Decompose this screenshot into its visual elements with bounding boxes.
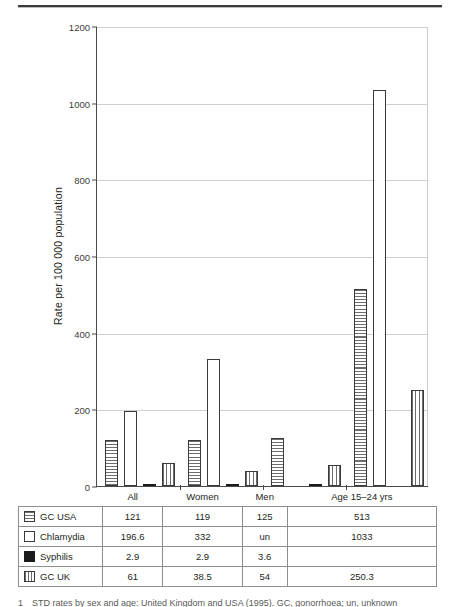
legend-swatch-chlamydia-icon — [24, 531, 35, 542]
legend-swatch-syphilis-icon — [24, 551, 35, 562]
bar-gc-uk-3 — [411, 390, 424, 486]
bar-gc-uk-2 — [328, 465, 341, 486]
table-cell-r3-c0: 61 — [103, 567, 163, 587]
table-cell-r2-c2: 3.6 — [242, 547, 287, 567]
bar-chlamydia-3 — [373, 90, 386, 486]
y-tick-mark-1200 — [92, 27, 97, 28]
table-header-row: AllWomenMenAge 15–24 yrs — [19, 487, 437, 507]
table-row-label-2: Syphilis — [19, 547, 103, 567]
table-row-label-3: GC UK — [19, 567, 103, 587]
table-cell-r2-c0: 2.9 — [103, 547, 163, 567]
y-tick-mark-600 — [92, 257, 97, 258]
table-cell-r2-c1: 2.9 — [163, 547, 242, 567]
table-header-0: All — [103, 487, 163, 507]
bar-syphilis-0 — [143, 484, 156, 487]
bar-gc-usa-1 — [188, 440, 201, 486]
table-cell-r0-c3: 513 — [287, 507, 436, 527]
y-tick-mark-400 — [92, 333, 97, 334]
table-row: GC USA121119125513 — [19, 507, 437, 527]
table-cell-r1-c3: 1033 — [287, 527, 436, 547]
legend-label-text: Syphilis — [40, 551, 73, 562]
plot-area: 020040060080010001200 — [96, 27, 428, 487]
table-cell-r0-c1: 119 — [163, 507, 242, 527]
data-table: AllWomenMenAge 15–24 yrsGC USA1211191255… — [18, 487, 437, 587]
legend-label-text: GC UK — [40, 571, 70, 582]
legend-label-text: GC USA — [40, 511, 76, 522]
figure-stc-rates-chart: Rate per 100 000 population 020040060080… — [0, 0, 454, 607]
figure-caption: 1STD rates by sex and age: United Kingdo… — [18, 598, 442, 607]
table-row: GC UK6138.554250.3 — [19, 567, 437, 587]
y-tick-mark-800 — [92, 180, 97, 181]
table-corner-cell — [19, 487, 103, 507]
table-cell-r3-c3: 250.3 — [287, 567, 436, 587]
table-cell-r1-c1: 332 — [163, 527, 242, 547]
y-axis-title: Rate per 100 000 population — [52, 126, 64, 386]
bar-syphilis-1 — [226, 484, 239, 487]
legend-swatch-gc-usa-icon — [24, 511, 35, 522]
bar-gc-usa-0 — [105, 440, 118, 486]
bar-syphilis-2 — [309, 484, 322, 487]
bar-chlamydia-1 — [207, 359, 220, 486]
y-tick-label-200: 200 — [74, 405, 90, 416]
y-tick-label-1200: 1200 — [69, 22, 90, 33]
table-cell-r1-c2: un — [242, 527, 287, 547]
table-cell-r2-c3 — [287, 547, 436, 567]
table-header-1: Women — [163, 487, 242, 507]
table-cell-r3-c2: 54 — [242, 567, 287, 587]
table-cell-r3-c1: 38.5 — [163, 567, 242, 587]
table-row: Chlamydia196.6332un1033 — [19, 527, 437, 547]
y-tick-label-600: 600 — [74, 252, 90, 263]
y-tick-label-400: 400 — [74, 328, 90, 339]
y-tick-label-1000: 1000 — [69, 98, 90, 109]
table-cell-r0-c0: 121 — [103, 507, 163, 527]
bar-chlamydia-0 — [124, 411, 137, 486]
table-row-label-1: Chlamydia — [19, 527, 103, 547]
bar-gc-uk-0 — [162, 463, 175, 486]
y-tick-mark-1000 — [92, 103, 97, 104]
legend-swatch-gc-uk-icon — [24, 571, 35, 582]
table-row-label-0: GC USA — [19, 507, 103, 527]
table-header-3: Age 15–24 yrs — [287, 487, 436, 507]
caption-text: STD rates by sex and age: United Kingdom… — [32, 598, 397, 607]
bar-gc-usa-2 — [271, 438, 284, 486]
table-cell-r1-c0: 196.6 — [103, 527, 163, 547]
bar-gc-usa-3 — [354, 289, 367, 486]
caption-number: 1 — [18, 598, 23, 607]
gridline-1200 — [97, 27, 428, 28]
table-header-2: Men — [242, 487, 287, 507]
y-tick-label-800: 800 — [74, 175, 90, 186]
y-tick-mark-200 — [92, 410, 97, 411]
legend-label-text: Chlamydia — [40, 531, 85, 542]
bar-gc-uk-1 — [245, 471, 258, 486]
table-cell-r0-c2: 125 — [242, 507, 287, 527]
table-row: Syphilis2.92.93.6 — [19, 547, 437, 567]
